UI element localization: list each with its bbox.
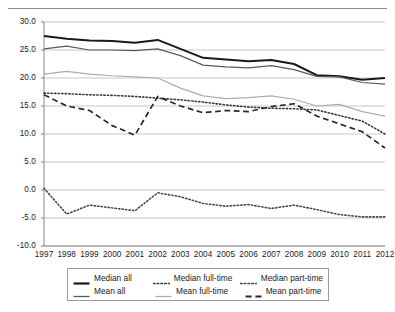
legend-item-median-part-time[interactable]: Median part-time (240, 272, 323, 285)
legend-label-mean-full-time: Mean full-time (176, 287, 228, 296)
legend-label-median-full-time: Median full-time (174, 274, 233, 283)
y-tick-label: -10.0 (2, 241, 36, 250)
legend-label-median-all: Median all (94, 274, 132, 283)
series-line-mean-all (44, 46, 385, 84)
legend-label-mean-part-time: Mean part-time (266, 287, 322, 296)
y-tick-label: 15.0 (2, 101, 36, 110)
y-tick-label: -5.0 (2, 213, 36, 222)
series-line-mean-part-time (44, 95, 385, 148)
chart-legend: Median all Median full-time Median part-… (67, 268, 329, 301)
line-chart-svg (0, 12, 395, 252)
legend-swatch-mean-all (73, 287, 90, 296)
legend-item-mean-part-time[interactable]: Mean part-time (245, 285, 323, 298)
y-tick-label: 0.0 (2, 185, 36, 194)
y-tick-label: 30.0 (2, 17, 36, 26)
legend-label-median-part-time: Median part-time (261, 274, 323, 283)
y-tick-label: 5.0 (2, 157, 36, 166)
chart-figure: 30.025.020.015.010.05.00.0-5.0-10.0 1997… (0, 0, 395, 312)
gridlines (44, 22, 385, 246)
legend-swatch-median-full-time (153, 274, 170, 283)
legend-swatch-mean-full-time (155, 287, 172, 296)
x-tick-label: 2012 (372, 250, 395, 259)
legend-item-median-full-time[interactable]: Median full-time (153, 272, 240, 285)
legend-swatch-median-all (73, 274, 90, 283)
series-line-median-part-time (44, 188, 385, 217)
legend-swatch-median-part-time (240, 274, 257, 283)
y-tick-label: 25.0 (2, 45, 36, 54)
legend-row-1: Median all Median full-time Median part-… (73, 272, 323, 285)
legend-label-mean-all: Mean all (94, 287, 125, 296)
legend-item-mean-full-time[interactable]: Mean full-time (155, 285, 245, 298)
plot-area: 30.025.020.015.010.05.00.0-5.0-10.0 (0, 12, 395, 252)
legend-item-median-all[interactable]: Median all (73, 272, 153, 285)
legend-row-2: Mean all Mean full-time Mean part-time (73, 285, 323, 298)
legend-item-mean-all[interactable]: Mean all (73, 285, 155, 298)
figure-top-rule (8, 8, 387, 9)
series-line-median-all (44, 36, 385, 80)
series-line-median-full-time (44, 93, 385, 134)
x-axis-tick-labels: 1997199819992000200120022003200420052006… (0, 250, 395, 264)
y-tick-label: 20.0 (2, 73, 36, 82)
legend-swatch-mean-part-time (245, 287, 262, 296)
y-tick-label: 10.0 (2, 129, 36, 138)
